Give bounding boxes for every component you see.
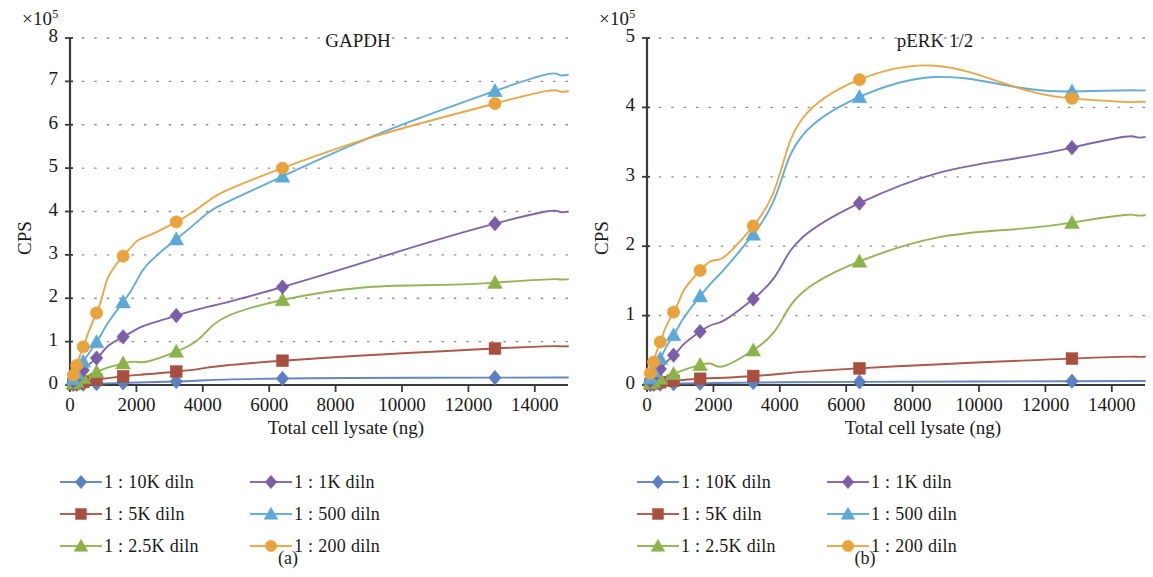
y-tick-label: 5 [577, 25, 635, 47]
data-point-marker [277, 355, 289, 367]
subcaption-b: (b) [577, 548, 1153, 569]
legend-item[interactable]: 1 : 10K diln [58, 466, 199, 498]
legend-label: 1 : 10K diln [681, 472, 771, 493]
legend-item[interactable]: 1 : 5K diln [635, 498, 776, 530]
legend-marker-diamond-icon [248, 470, 294, 494]
data-point-marker [117, 330, 130, 345]
data-point-marker [644, 367, 656, 379]
data-point-marker [747, 292, 760, 307]
y-tick-label: 4 [577, 94, 635, 116]
legend-item[interactable]: 1 : 500 diln [248, 498, 380, 530]
data-point-marker [694, 324, 707, 339]
x-tick-label: 14000 [1062, 394, 1153, 416]
data-point-marker [489, 343, 501, 355]
legend-marker-triangle-icon [248, 502, 294, 526]
data-point-marker [488, 84, 503, 97]
data-point-marker [117, 250, 129, 262]
data-point-marker [654, 336, 666, 348]
y-tick-label: 6 [0, 112, 58, 134]
data-point-marker [747, 370, 759, 382]
data-point-marker [489, 216, 502, 231]
y-tick-label: 4 [0, 199, 58, 221]
y-tick-label: 8 [0, 25, 58, 47]
data-point-marker [489, 370, 502, 385]
legend-label: 1 : 10K diln [104, 472, 194, 493]
legend-marker-diamond-icon [635, 470, 681, 494]
legend-label: 1 : 1K diln [871, 472, 952, 493]
legend-marker-triangle-icon [825, 502, 871, 526]
y-tick-label: 1 [577, 303, 635, 325]
data-point-marker [667, 306, 679, 318]
data-point-marker [666, 366, 681, 379]
legend-marker-square-icon [58, 502, 104, 526]
y-tick-label: 3 [0, 242, 58, 264]
legend-label: 1 : 5K diln [681, 504, 762, 525]
data-point-marker [70, 359, 82, 371]
data-point-marker [170, 216, 182, 228]
data-point-marker [647, 356, 659, 368]
data-point-marker [694, 264, 706, 276]
x-axis-label-a: Total cell lysate (ng) [0, 417, 634, 439]
data-point-marker [77, 341, 89, 353]
panel-b: ×105 pERK 1/2 CPS Total cell lysate (ng)… [577, 0, 1153, 577]
legend-marker-diamond-icon [825, 470, 871, 494]
data-point-marker [169, 344, 184, 357]
y-tick-label: 2 [577, 233, 635, 255]
data-point-marker [853, 196, 866, 211]
y-tick-label: 3 [577, 164, 635, 186]
data-point-marker [666, 328, 681, 341]
plot-area-b [577, 0, 1153, 460]
data-point-marker [853, 73, 865, 85]
subcaption-a: (a) [0, 548, 576, 569]
y-tick-label: 5 [0, 155, 58, 177]
legend-item[interactable]: 1 : 5K diln [58, 498, 199, 530]
data-point-marker [170, 308, 183, 323]
data-point-marker [694, 373, 706, 385]
data-point-marker [747, 220, 759, 232]
x-tick-label: 14000 [485, 394, 585, 416]
data-point-marker [116, 295, 131, 308]
legend-item[interactable]: 1 : 10K diln [635, 466, 776, 498]
y-tick-label: 7 [0, 68, 58, 90]
data-point-marker [89, 335, 104, 348]
data-point-marker [90, 307, 102, 319]
data-point-marker [276, 371, 289, 386]
y-tick-label: 0 [0, 372, 58, 394]
data-point-marker [170, 366, 182, 378]
data-point-marker [746, 343, 761, 356]
data-point-marker [89, 365, 104, 378]
data-point-marker [1066, 353, 1078, 365]
legend-item[interactable]: 1 : 1K diln [825, 466, 957, 498]
data-point-marker [852, 90, 867, 103]
data-point-marker [489, 97, 501, 109]
data-point-marker [852, 254, 867, 267]
legend-marker-diamond-icon [58, 470, 104, 494]
legend-label: 1 : 5K diln [104, 504, 185, 525]
legend-item[interactable]: 1 : 1K diln [248, 466, 380, 498]
data-point-marker [1066, 92, 1078, 104]
legend-label: 1 : 500 diln [871, 504, 957, 525]
data-point-marker [1066, 374, 1079, 389]
y-tick-label: 0 [577, 372, 635, 394]
data-point-marker [1066, 140, 1079, 155]
data-point-marker [854, 362, 866, 374]
legend-label: 1 : 500 diln [294, 504, 380, 525]
data-point-marker [276, 162, 288, 174]
plot-area-a [0, 0, 576, 460]
y-tick-label: 2 [0, 285, 58, 307]
panel-a: ×105 GAPDH CPS Total cell lysate (ng) 1 … [0, 0, 576, 577]
data-point-marker [169, 232, 184, 245]
figure-container: ×105 GAPDH CPS Total cell lysate (ng) 1 … [0, 0, 1153, 577]
legend-marker-square-icon [635, 502, 681, 526]
data-point-marker [117, 370, 129, 382]
y-tick-label: 1 [0, 329, 58, 351]
x-axis-label-b: Total cell lysate (ng) [577, 417, 1153, 439]
data-point-marker [853, 375, 866, 390]
legend-label: 1 : 1K diln [294, 472, 375, 493]
data-point-marker [276, 280, 289, 295]
legend-item[interactable]: 1 : 500 diln [825, 498, 957, 530]
